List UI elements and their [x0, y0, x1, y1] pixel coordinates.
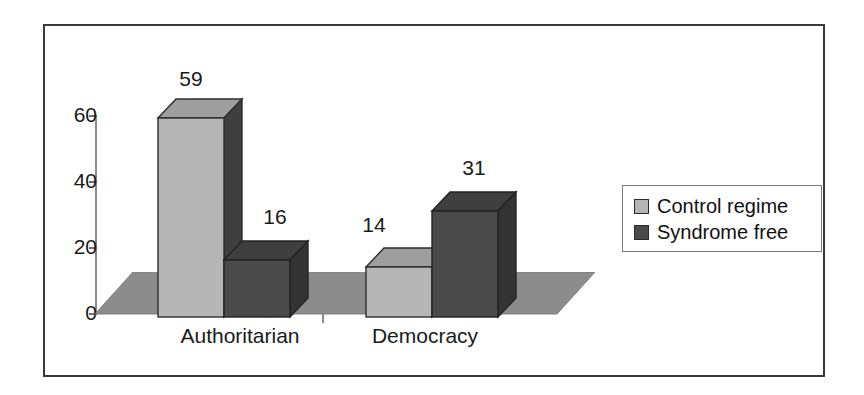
- legend-label: Syndrome free: [657, 222, 788, 242]
- x-tick-mark: [322, 314, 324, 323]
- y-tick-60: 60: [45, 115, 97, 117]
- legend-item-syndrome-free[interactable]: Syndrome free: [634, 219, 821, 245]
- x-category-label-authoritarian: Authoritarian: [155, 325, 325, 346]
- bar-label-authoritarian-control-regime: 59: [158, 68, 224, 89]
- bar-label-democracy-control-regime: 14: [341, 214, 407, 235]
- y-tick-label: 0: [55, 302, 97, 323]
- y-tick-0: 0: [45, 313, 97, 315]
- x-category-label-democracy: Democracy: [340, 325, 510, 346]
- legend-label: Control regime: [657, 196, 788, 216]
- bar-authoritarian-syndrome-free: [224, 241, 308, 317]
- y-tick-label: 40: [55, 170, 97, 191]
- y-tick-label: 20: [55, 236, 97, 257]
- bar-label-authoritarian-syndrome-free: 16: [242, 206, 308, 227]
- legend: Control regime Syndrome free: [622, 185, 822, 252]
- bar-democracy-syndrome-free: [432, 192, 516, 317]
- y-tick-40: 40: [45, 181, 97, 183]
- y-tick-label: 60: [55, 104, 97, 125]
- plot-area: 60 40 20 0 59: [45, 26, 827, 379]
- legend-swatch-icon: [634, 225, 649, 240]
- y-tick-20: 20: [45, 247, 97, 249]
- legend-item-control-regime[interactable]: Control regime: [634, 193, 821, 219]
- chart-frame: 60 40 20 0 59: [43, 24, 825, 377]
- bar-label-democracy-syndrome-free: 31: [441, 157, 507, 178]
- legend-swatch-icon: [634, 199, 649, 214]
